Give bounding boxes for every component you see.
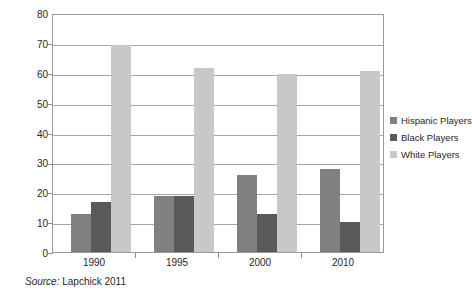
y-axis-label-10: 10 <box>8 219 48 229</box>
legend-item-black-players[interactable]: Black Players <box>390 129 468 146</box>
legend-label-hispanic-players: Hispanic Players <box>401 116 472 126</box>
bar-1990-black[interactable] <box>91 202 111 252</box>
bar-2010-black[interactable] <box>340 222 360 252</box>
x-axis-label-1995: 1995 <box>137 258 217 268</box>
bar-group-2010 <box>312 15 385 252</box>
bar-group-1990 <box>63 15 136 252</box>
x-tick-mark <box>135 253 136 258</box>
legend-label-black-players: Black Players <box>401 133 459 143</box>
bar-1995-white[interactable] <box>194 68 214 252</box>
bar-1990-white[interactable] <box>111 45 131 252</box>
legend-item-white-players[interactable]: White Players <box>390 146 468 163</box>
legend-label-white-players: White Players <box>401 150 460 160</box>
y-tick-mark <box>48 253 53 254</box>
plot-area <box>52 14 384 253</box>
bar-2010-hispanic[interactable] <box>320 169 340 252</box>
chart-legend: Hispanic Players Black Players White Pla… <box>390 112 468 163</box>
y-axis-label-20: 20 <box>8 189 48 199</box>
legend-swatch-white-icon <box>390 151 397 158</box>
y-axis-label-30: 30 <box>8 159 48 169</box>
bar-2000-hispanic[interactable] <box>237 175 257 252</box>
legend-swatch-hispanic-icon <box>390 117 397 124</box>
x-axis-label-2010: 2010 <box>303 258 383 268</box>
y-axis-label-60: 60 <box>8 70 48 80</box>
source-text: Lapchick 2011 <box>62 276 126 287</box>
bar-1995-black[interactable] <box>174 196 194 252</box>
x-tick-mark <box>301 253 302 258</box>
legend-item-hispanic-players[interactable]: Hispanic Players <box>390 112 468 129</box>
bar-2010-white[interactable] <box>360 71 380 252</box>
bar-group-1995 <box>146 15 219 252</box>
y-axis-label-80: 80 <box>8 10 48 20</box>
y-axis-label-0: 0 <box>8 249 48 259</box>
x-axis-label-1990: 1990 <box>54 258 134 268</box>
y-axis-label-40: 40 <box>8 130 48 140</box>
y-axis-label-50: 50 <box>8 100 48 110</box>
source-label: Source: <box>25 276 59 287</box>
x-axis-label-2000: 2000 <box>220 258 300 268</box>
bar-2000-white[interactable] <box>277 74 297 252</box>
x-tick-mark <box>218 253 219 258</box>
y-axis-label-70: 70 <box>8 40 48 50</box>
source-note: Source: Lapchick 2011 <box>25 277 126 287</box>
bar-2000-black[interactable] <box>257 214 277 253</box>
legend-swatch-black-icon <box>390 134 397 141</box>
bar-group-2000 <box>229 15 302 252</box>
bar-1995-hispanic[interactable] <box>154 196 174 252</box>
bar-1990-hispanic[interactable] <box>71 214 91 253</box>
